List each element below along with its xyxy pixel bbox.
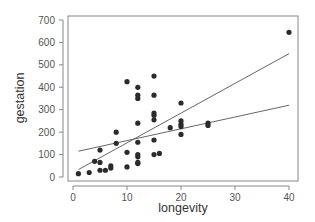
- y-axis-title: gestation: [13, 73, 27, 124]
- data-point: [97, 168, 102, 173]
- data-point: [135, 93, 140, 98]
- y-axis: 0100200300400500600700: [38, 15, 63, 183]
- data-point: [92, 159, 97, 164]
- data-point: [151, 152, 156, 157]
- data-point: [151, 93, 156, 98]
- data-point: [135, 121, 140, 126]
- data-point: [135, 160, 140, 165]
- x-tick-label: 30: [229, 192, 241, 203]
- data-point: [178, 118, 183, 123]
- x-tick-label: 10: [121, 192, 133, 203]
- data-point: [135, 85, 140, 90]
- data-point: [97, 147, 102, 152]
- data-point: [151, 73, 156, 78]
- data-point: [135, 152, 140, 157]
- data-point: [151, 137, 156, 142]
- data-point: [103, 168, 108, 173]
- y-tick-label: 700: [38, 15, 55, 26]
- y-tick-label: 100: [38, 149, 55, 160]
- data-point: [157, 151, 162, 156]
- data-point: [87, 170, 92, 175]
- data-point: [168, 125, 173, 130]
- fit-steep-line: [78, 54, 289, 170]
- regression-lines: [78, 54, 289, 170]
- y-tick-label: 200: [38, 127, 55, 138]
- data-point: [205, 121, 210, 126]
- data-point: [108, 163, 113, 168]
- y-tick-label: 400: [38, 82, 55, 93]
- data-point: [76, 171, 81, 176]
- scatter-chart: 010203040 0100200300400500600700 longevi…: [0, 0, 315, 222]
- data-point: [178, 132, 183, 137]
- data-points: [76, 30, 292, 176]
- data-point: [286, 30, 291, 35]
- x-axis-title: longevity: [158, 201, 208, 215]
- x-tick-label: 0: [70, 192, 76, 203]
- data-point: [151, 110, 156, 115]
- data-point: [135, 140, 140, 145]
- data-point: [124, 150, 129, 155]
- data-point: [97, 160, 102, 165]
- y-tick-label: 500: [38, 59, 55, 70]
- data-point: [114, 130, 119, 135]
- data-point: [151, 117, 156, 122]
- x-tick-label: 40: [283, 192, 295, 203]
- y-tick-label: 0: [49, 172, 55, 183]
- data-point: [124, 79, 129, 84]
- data-point: [114, 141, 119, 146]
- y-tick-label: 300: [38, 104, 55, 115]
- y-tick-label: 600: [38, 37, 55, 48]
- data-point: [124, 164, 129, 169]
- data-point: [178, 100, 183, 105]
